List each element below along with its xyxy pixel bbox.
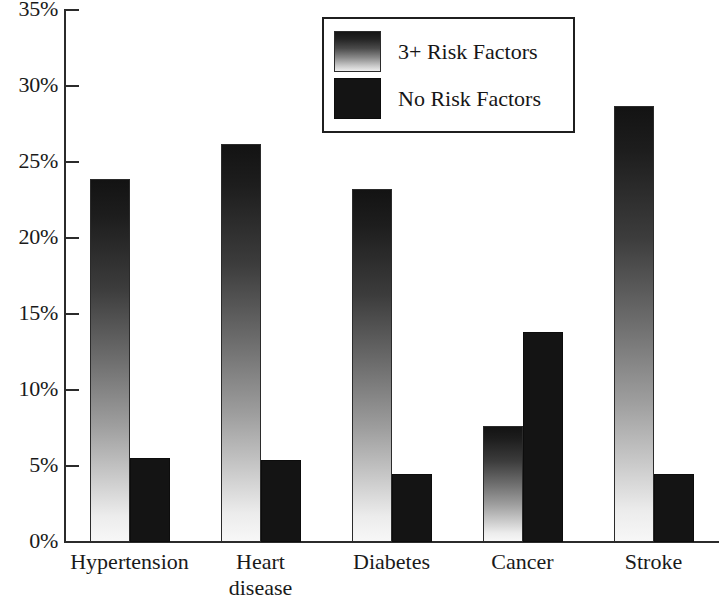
y-axis-tick-label: 20% bbox=[2, 226, 58, 248]
bar-heart-disease-series-2 bbox=[261, 460, 301, 542]
chart-legend: 3+ Risk Factors No Risk Factors bbox=[322, 17, 575, 133]
bar-hypertension-series-1 bbox=[90, 179, 130, 542]
y-axis-tick-label: 35% bbox=[2, 0, 58, 20]
legend-label-3plus-risk-factors: 3+ Risk Factors bbox=[398, 40, 538, 64]
y-axis-tick-label-wrap: 35% bbox=[0, 0, 58, 20]
category-label: Heart disease bbox=[195, 549, 326, 601]
legend-item-3plus-risk-factors: 3+ Risk Factors bbox=[334, 28, 563, 75]
legend-swatch-gradient-icon bbox=[334, 31, 381, 72]
bar-stroke-series-1 bbox=[614, 106, 654, 542]
y-axis-tick-label: 25% bbox=[2, 150, 58, 172]
bar-diabetes-series-2 bbox=[392, 474, 432, 542]
bar-heart-disease-series-1 bbox=[221, 144, 261, 542]
y-axis-tick-label-wrap: 15% bbox=[0, 302, 58, 324]
y-axis-tick-label-wrap: 30% bbox=[0, 74, 58, 96]
y-axis-tick-label-wrap: 25% bbox=[0, 150, 58, 172]
category-label: Diabetes bbox=[326, 549, 457, 575]
y-axis-tick-label: 5% bbox=[2, 454, 58, 476]
bar-chart: 0%5%10%15%20%25%30%35% HypertensionHeart… bbox=[0, 0, 728, 612]
y-axis-tick-label-wrap: 20% bbox=[0, 226, 58, 248]
y-axis-tick-label: 10% bbox=[2, 378, 58, 400]
y-axis-tick-label-wrap: 5% bbox=[0, 454, 58, 476]
category-label: Cancer bbox=[457, 549, 588, 575]
bar-hypertension-series-2 bbox=[130, 458, 170, 542]
y-axis-tick-label: 15% bbox=[2, 302, 58, 324]
legend-swatch-solid-icon bbox=[334, 78, 381, 119]
bar-diabetes-series-1 bbox=[352, 189, 392, 542]
legend-item-no-risk-factors: No Risk Factors bbox=[334, 75, 563, 122]
bar-cancer-series-2 bbox=[523, 332, 563, 542]
category-label: Stroke bbox=[588, 549, 719, 575]
bar-cancer-series-1 bbox=[483, 426, 523, 542]
bar-stroke-series-2 bbox=[654, 474, 694, 542]
category-label: Hypertension bbox=[64, 549, 195, 575]
legend-label-no-risk-factors: No Risk Factors bbox=[398, 87, 541, 111]
y-axis-tick-label: 0% bbox=[2, 530, 58, 552]
y-axis-tick-label: 30% bbox=[2, 74, 58, 96]
y-axis-tick-label-wrap: 10% bbox=[0, 378, 58, 400]
y-axis-tick-label-wrap: 0% bbox=[0, 530, 58, 552]
